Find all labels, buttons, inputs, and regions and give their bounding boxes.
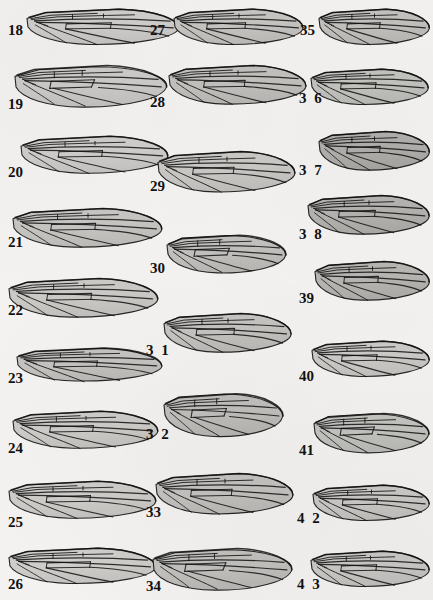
figure-number-label: 21 [8, 235, 23, 250]
figure-26 [8, 545, 158, 587]
wing-illustration [310, 66, 430, 108]
figure-22 [8, 275, 160, 321]
wing-illustration [12, 205, 164, 251]
wing-illustration [157, 148, 297, 196]
figure-43 [310, 548, 431, 590]
wing-illustration [163, 310, 293, 356]
figure-number-label: 35 [300, 23, 315, 38]
wing-illustration [16, 345, 164, 385]
wing-illustration [14, 62, 169, 110]
figure-35 [318, 6, 431, 48]
wing-illustration [312, 482, 431, 524]
figure-37 [318, 128, 431, 174]
wing-illustration [152, 545, 294, 593]
wing-illustration [20, 133, 170, 177]
figure-36 [310, 66, 430, 108]
figure-number-label: 3 1 [146, 343, 171, 358]
figure-number-label: 18 [8, 23, 23, 38]
figure-number-label: 3 6 [299, 91, 324, 106]
figure-24 [12, 408, 160, 452]
figure-number-label: 4 2 [297, 511, 322, 526]
wing-illustration [313, 410, 431, 456]
figure-number-label: 26 [8, 577, 23, 592]
wing-illustration [163, 390, 285, 440]
figure-29 [157, 148, 297, 196]
figure-41 [313, 410, 431, 456]
figure-number-label: 28 [150, 95, 165, 110]
wing-illustration [318, 6, 431, 48]
figure-42 [312, 482, 431, 524]
figure-19 [14, 62, 169, 110]
figure-28 [168, 62, 308, 108]
figure-number-label: 27 [150, 23, 165, 38]
figure-30 [166, 232, 288, 276]
figure-20 [20, 133, 170, 177]
wing-illustration [155, 470, 295, 518]
figure-21 [12, 205, 164, 251]
wing-illustration [307, 192, 431, 238]
wing-illustration [12, 408, 160, 452]
figure-number-label: 4 3 [297, 577, 322, 592]
figure-32 [163, 390, 285, 440]
figure-number-label: 34 [146, 579, 161, 594]
figure-number-label: 3 2 [146, 427, 171, 442]
wing-illustration [8, 478, 158, 522]
figure-25 [8, 478, 158, 522]
figure-38 [307, 192, 431, 238]
figure-number-label: 23 [8, 371, 23, 386]
wing-illustration [310, 548, 431, 590]
figure-number-label: 25 [8, 515, 23, 530]
figure-34 [152, 545, 294, 593]
figure-number-label: 24 [8, 441, 23, 456]
figure-40 [311, 338, 431, 380]
figure-39 [314, 258, 431, 304]
wing-illustration [168, 62, 308, 108]
wing-illustration [8, 275, 160, 321]
wing-illustration [311, 338, 431, 380]
figure-number-label: 22 [8, 303, 23, 318]
figure-number-label: 40 [299, 369, 314, 384]
figure-33 [155, 470, 295, 518]
figure-number-label: 30 [150, 261, 165, 276]
figure-number-label: 39 [299, 291, 314, 306]
figure-number-label: 19 [8, 97, 23, 112]
figure-number-label: 29 [150, 179, 165, 194]
wing-illustration [318, 128, 431, 174]
figure-23 [16, 345, 164, 385]
figure-number-label: 20 [8, 165, 23, 180]
wing-illustration [8, 545, 158, 587]
wing-illustration [314, 258, 431, 304]
figure-number-label: 3 7 [299, 163, 324, 178]
figure-31 [163, 310, 293, 356]
wing-illustration [166, 232, 288, 276]
figure-number-label: 41 [299, 443, 314, 458]
figure-number-label: 33 [146, 505, 161, 520]
figure-number-label: 3 8 [299, 227, 324, 242]
figure-plate: 18 19 [0, 0, 433, 600]
wing-illustration [173, 6, 305, 48]
figure-27 [173, 6, 305, 48]
